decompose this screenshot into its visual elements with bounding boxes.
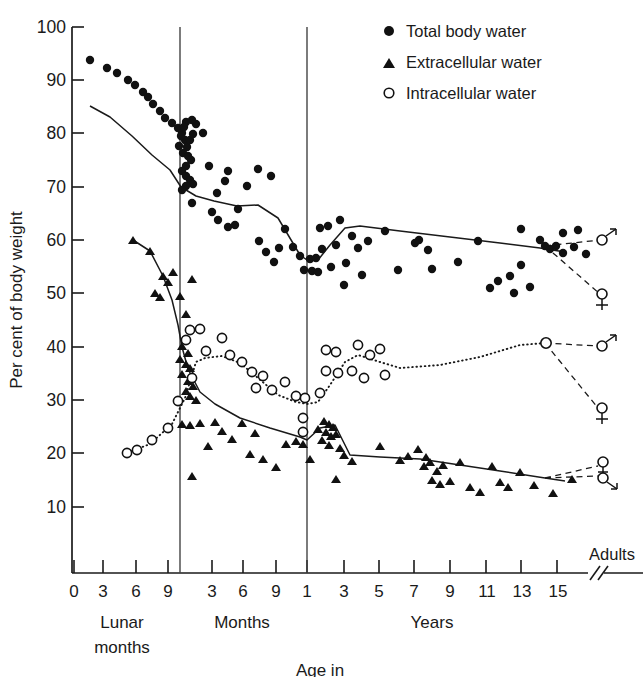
x-tick-label-lunar-6: 6 [131, 582, 140, 601]
x-tick-labels: 0 3 6 9 3 6 9 1 3 5 7 9 11 13 15 [69, 582, 567, 601]
segment-label-lunar-line1: Lunar [100, 613, 144, 632]
x-axis: 0 3 6 9 3 6 9 1 3 5 7 9 11 13 15 Lunar m… [69, 545, 643, 677]
x-tick-label-years-3: 3 [339, 582, 348, 601]
legend-entry-extracellular-water: Extracellular water [383, 53, 542, 71]
x-tick-label-months-9: 9 [271, 582, 280, 601]
legend-label-intracellular-water: Intracellular water [406, 84, 537, 102]
y-tick-labels: 100 90 80 70 60 50 40 30 20 10 [37, 17, 66, 517]
x-tick-label-months-6: 6 [238, 582, 247, 601]
legend-entry-intracellular-water: Intracellular water [384, 84, 537, 102]
y-tick-label: 100 [37, 17, 66, 37]
total-body-water-adult-male-symbol [597, 229, 616, 245]
series-total-body-water [86, 56, 616, 310]
segment-dividers [180, 27, 307, 573]
adults-label: Adults [589, 545, 635, 563]
y-axis: 100 90 80 70 60 50 40 30 20 10 Per cent … [7, 17, 84, 573]
legend-label-total-body-water: Total body water [406, 22, 527, 40]
total-body-water-trend [90, 106, 565, 260]
y-tick-label: 60 [47, 230, 67, 250]
y-tick-label: 30 [47, 390, 67, 410]
total-body-water-adult-female-line [545, 246, 600, 294]
y-tick-label: 50 [47, 283, 67, 303]
y-tick-label: 80 [47, 123, 67, 143]
x-tick-label-months-3: 3 [207, 582, 216, 601]
x-tick-label-years-9: 9 [445, 582, 454, 601]
y-tick-marks [72, 27, 84, 507]
y-tick-label: 20 [47, 443, 67, 463]
series-intracellular-water [122, 324, 616, 457]
y-tick-label: 70 [47, 177, 67, 197]
intracellular-water-adult-female-line [545, 343, 598, 408]
x-segment-labels: Lunar months Months Years [94, 613, 453, 657]
x-axis-title: Age in [296, 661, 344, 677]
filled-circle-icon [384, 26, 394, 36]
series-extracellular-water [128, 236, 617, 497]
extracellular-water-adult-male-symbol [598, 473, 617, 489]
legend-entry-total-body-water: Total body water [384, 22, 527, 40]
x-tick-label-years-1: 1 [302, 582, 311, 601]
legend: Total body water Extracellular water Int… [383, 22, 542, 102]
x-tick-label-years-15: 15 [549, 582, 568, 601]
x-tick-label-years-5: 5 [374, 582, 383, 601]
x-tick-label-lunar-0: 0 [69, 582, 78, 601]
total-body-water-adult-female-symbol [596, 289, 608, 310]
open-circle-icon [384, 88, 394, 98]
body-water-composition-chart: 100 90 80 70 60 50 40 30 20 10 Per cent … [0, 0, 643, 677]
segment-label-years: Years [411, 613, 454, 632]
x-tick-label-lunar-9: 9 [163, 582, 172, 601]
x-tick-marks [74, 560, 557, 573]
x-tick-label-lunar-3: 3 [98, 582, 107, 601]
x-tick-label-years-13: 13 [513, 582, 532, 601]
y-tick-label: 10 [47, 497, 67, 517]
intracellular-water-adult-female-symbol [596, 403, 608, 424]
chart-svg: 100 90 80 70 60 50 40 30 20 10 Per cent … [0, 0, 643, 677]
legend-label-extracellular-water: Extracellular water [406, 53, 542, 71]
x-tick-label-years-7: 7 [409, 582, 418, 601]
intracellular-water-adult-male-line [545, 343, 598, 346]
filled-triangle-icon [383, 58, 395, 68]
y-tick-label: 90 [47, 70, 67, 90]
segment-label-months: Months [214, 613, 270, 632]
segment-label-lunar-line2: months [94, 638, 150, 657]
y-tick-label: 40 [47, 337, 67, 357]
intracellular-water-adult-male-symbol [597, 335, 616, 351]
x-tick-label-years-11: 11 [478, 582, 496, 601]
y-axis-title: Per cent of body weight [7, 211, 26, 389]
